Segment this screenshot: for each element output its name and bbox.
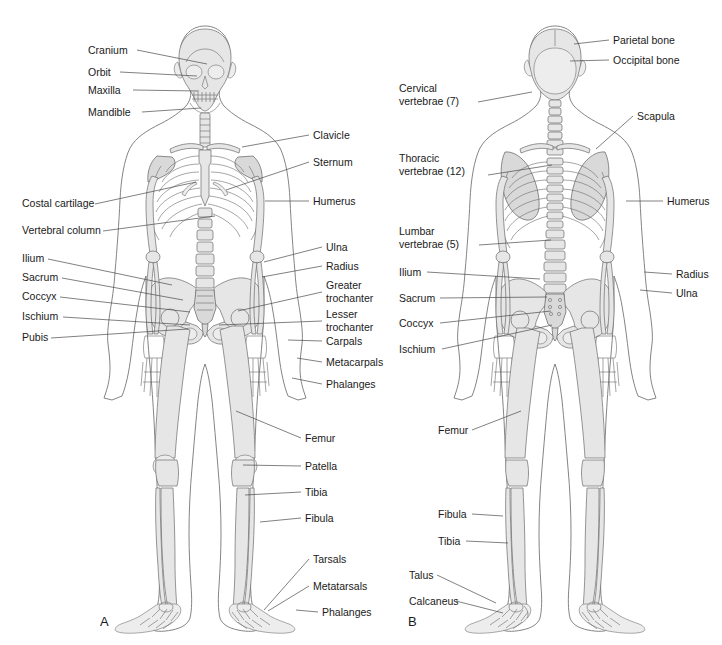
legs-posterior xyxy=(505,328,605,608)
label-sacrum: Sacrum xyxy=(22,271,58,283)
label-line: Sacrum xyxy=(399,292,435,304)
label-line: Fibula xyxy=(438,508,467,520)
label-ischium-b: Ischium xyxy=(399,343,435,355)
label-coccyx-b: Coccyx xyxy=(399,317,434,329)
label-line: Thoracic xyxy=(399,152,439,164)
label-fibula: Fibula xyxy=(305,512,334,524)
label-line: Costal cartilage xyxy=(22,197,95,209)
label-line: Calcaneus xyxy=(409,595,459,607)
panel-letter-a: A xyxy=(100,614,109,629)
label-line: Pubis xyxy=(22,331,48,343)
label-mandible: Mandible xyxy=(88,106,131,118)
label-line: Sternum xyxy=(313,156,353,168)
label-line: trochanter xyxy=(326,292,374,304)
feet-posterior xyxy=(465,602,645,633)
label-ischium: Ischium xyxy=(22,310,58,322)
panel-a-figure xyxy=(104,26,306,633)
label-line: Vertebral column xyxy=(22,224,101,236)
label-ulna: Ulna xyxy=(326,241,348,253)
label-orbit: Orbit xyxy=(88,66,111,78)
label-line: vertebrae (7) xyxy=(399,95,459,107)
label-coccyx: Coccyx xyxy=(22,290,57,302)
label-clavicle: Clavicle xyxy=(313,129,350,141)
label-line: Ischium xyxy=(399,343,435,355)
label-cranium: Cranium xyxy=(88,44,128,56)
label-metatarsals: Metatarsals xyxy=(313,580,367,592)
label-line: Tarsals xyxy=(313,553,346,565)
label-tibia: Tibia xyxy=(305,486,328,498)
label-line: Cervical xyxy=(399,82,437,94)
label-line: Occipital bone xyxy=(613,54,680,66)
leader-line-phalanges-foot xyxy=(296,610,318,612)
label-line: Tibia xyxy=(305,486,328,498)
label-ulna-b: Ulna xyxy=(676,287,698,299)
label-line: Radius xyxy=(326,260,359,272)
leader-line-cervical-vertebrae xyxy=(478,92,532,102)
label-phalanges-hand: Phalanges xyxy=(326,378,376,390)
panel-letter-b: B xyxy=(408,614,417,629)
label-occipital-bone: Occipital bone xyxy=(613,54,680,66)
label-line: Patella xyxy=(305,460,337,472)
label-line: Coccyx xyxy=(399,317,434,329)
label-scapula: Scapula xyxy=(637,110,675,122)
label-femur: Femur xyxy=(305,432,336,444)
label-line: Parietal bone xyxy=(613,34,675,46)
vertebral-column-anterior xyxy=(196,208,214,288)
label-line: vertebrae (5) xyxy=(399,238,459,250)
label-line: Sacrum xyxy=(22,271,58,283)
label-cervical-vertebrae: Cervicalvertebrae (7) xyxy=(399,82,459,107)
label-line: Maxilla xyxy=(88,84,121,96)
label-line: Humerus xyxy=(667,195,710,207)
label-radius: Radius xyxy=(326,260,359,272)
label-line: trochanter xyxy=(326,321,374,333)
label-line: Metatarsals xyxy=(313,580,367,592)
leader-line-radius-b xyxy=(644,272,672,274)
label-patella: Patella xyxy=(305,460,337,472)
legs-anterior xyxy=(153,326,257,608)
label-greater-trochanter: Greatertrochanter xyxy=(326,279,374,304)
label-line: Ilium xyxy=(399,266,421,278)
leader-line-tarsals xyxy=(264,559,309,610)
label-line: Femur xyxy=(305,432,336,444)
label-line: Ischium xyxy=(22,310,58,322)
feet-anterior xyxy=(115,602,295,633)
label-humerus: Humerus xyxy=(313,195,356,207)
leader-line-fibula-b xyxy=(472,514,503,516)
label-line: Clavicle xyxy=(313,129,350,141)
label-line: Tibia xyxy=(438,535,461,547)
label-line: Lumbar xyxy=(399,225,435,237)
label-line: Greater xyxy=(326,279,362,291)
label-fibula-b: Fibula xyxy=(438,508,467,520)
label-line: Mandible xyxy=(88,106,131,118)
leader-line-tibia-b xyxy=(466,541,508,543)
label-line: Talus xyxy=(409,569,434,581)
label-line: Ilium xyxy=(22,252,44,264)
label-pubis: Pubis xyxy=(22,331,48,343)
label-line: Fibula xyxy=(305,512,334,524)
label-metacarpals: Metacarpals xyxy=(326,356,383,368)
label-costal-cartilage: Costal cartilage xyxy=(22,197,95,209)
label-line: Metacarpals xyxy=(326,356,383,368)
label-line: Femur xyxy=(438,424,469,436)
label-tarsals: Tarsals xyxy=(313,553,346,565)
label-phalanges-foot: Phalanges xyxy=(322,606,372,618)
leader-line-fibula xyxy=(260,518,301,522)
leader-line-maxilla xyxy=(133,90,199,91)
anatomy-figure: CraniumOrbitMaxillaMandibleCostal cartil… xyxy=(0,0,722,645)
skull-anterior xyxy=(174,29,235,113)
label-humerus-b: Humerus xyxy=(667,195,710,207)
label-maxilla: Maxilla xyxy=(88,84,121,96)
label-radius-b: Radius xyxy=(676,268,709,280)
label-thoracic-vertebrae: Thoracicvertebrae (12) xyxy=(399,152,465,177)
leader-line-parietal-bone xyxy=(574,40,609,44)
label-line: Ulna xyxy=(676,287,698,299)
label-carpals: Carpals xyxy=(326,335,362,347)
label-calcaneus: Calcaneus xyxy=(409,595,459,607)
label-lumbar-vertebrae: Lumbarvertebrae (5) xyxy=(399,225,459,250)
label-line: Humerus xyxy=(313,195,356,207)
label-ilium: Ilium xyxy=(22,252,44,264)
label-line: vertebrae (12) xyxy=(399,165,465,177)
label-lesser-trochanter: Lessertrochanter xyxy=(326,308,374,333)
label-line: Radius xyxy=(676,268,709,280)
label-line: Orbit xyxy=(88,66,111,78)
